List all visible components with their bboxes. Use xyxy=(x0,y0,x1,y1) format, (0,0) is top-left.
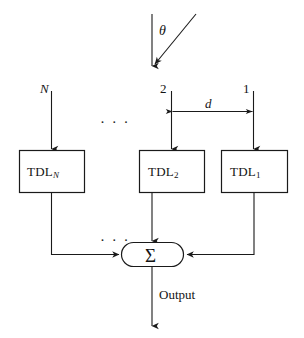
tdl-n-label: TDLN xyxy=(27,164,59,180)
ellipsis-top: · · · xyxy=(100,114,130,131)
sensor-label-2: 2 xyxy=(160,82,167,95)
tdl-2-text: TDL xyxy=(148,164,174,179)
ellipsis-bottom: · · · xyxy=(100,232,130,249)
tdl-1-to-sum-path xyxy=(187,193,254,255)
output-label: Output xyxy=(159,288,195,301)
tdl-2-subscript: 2 xyxy=(174,170,179,180)
tdl-2-label: TDL2 xyxy=(148,164,178,180)
sensor-feed-lines xyxy=(52,91,254,149)
tdl-1-text: TDL xyxy=(230,164,256,179)
sensor-label-n: N xyxy=(40,82,49,95)
angle-label: θ xyxy=(159,24,166,38)
sigma-symbol: Σ xyxy=(145,245,156,267)
sensor-label-1: 1 xyxy=(243,82,250,95)
spacing-label: d xyxy=(205,97,212,110)
tdl-1-label: TDL1 xyxy=(230,164,260,180)
incidence-angle-indicator xyxy=(152,14,196,66)
tdl-n-text: TDL xyxy=(27,164,53,179)
tdl-1-subscript: 1 xyxy=(256,170,261,180)
diagram-canvas: θ N 2 1 d · · · TDLN TDL2 TDL1 · · · Σ O… xyxy=(0,0,304,338)
tdl-n-subscript: N xyxy=(53,170,59,180)
incoming-wave-arrow xyxy=(155,14,196,64)
